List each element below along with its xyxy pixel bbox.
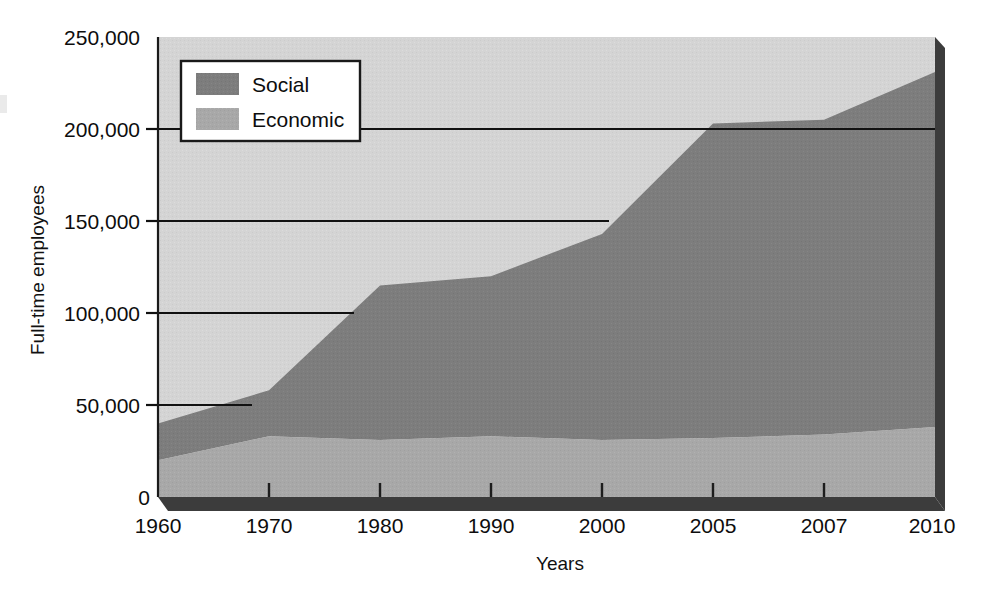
x-tick-labels: 1960 1970 1980 1990 2000 2005 2007 2010 xyxy=(135,514,956,537)
ytick-label-0: 0 xyxy=(138,486,150,509)
y-axis-title: Full-time employees xyxy=(27,185,48,355)
floor-slab xyxy=(158,497,945,511)
xtick-label-1970: 1970 xyxy=(246,514,293,537)
legend-swatch-social xyxy=(196,73,239,95)
xtick-label-2007: 2007 xyxy=(801,514,848,537)
y-tick-nubs xyxy=(146,129,158,405)
legend-entry-economic[interactable]: Economic xyxy=(196,108,344,131)
ytick-label-100000: 100,000 xyxy=(64,302,140,325)
scan-edge-artifact xyxy=(0,95,7,113)
chart-legend: Social Economic xyxy=(181,61,360,141)
legend-label-social: Social xyxy=(252,73,309,96)
ytick-label-150000: 150,000 xyxy=(64,210,140,233)
xtick-label-2005: 2005 xyxy=(690,514,737,537)
stacked-area-chart: 250,000 200,000 150,000 100,000 50,000 0… xyxy=(0,0,993,590)
legend-label-economic: Economic xyxy=(252,108,344,131)
xtick-label-1990: 1990 xyxy=(468,514,515,537)
legend-swatch-economic xyxy=(196,108,239,130)
legend-entry-social[interactable]: Social xyxy=(196,73,309,96)
ytick-label-200000: 200,000 xyxy=(64,118,140,141)
ytick-label-250000: 250,000 xyxy=(64,26,140,49)
x-axis-title: Years xyxy=(536,553,584,574)
right-slab xyxy=(935,37,945,511)
xtick-label-1960: 1960 xyxy=(135,514,182,537)
xtick-label-1980: 1980 xyxy=(357,514,404,537)
ytick-label-50000: 50,000 xyxy=(76,394,140,417)
y-tick-labels: 250,000 200,000 150,000 100,000 50,000 0 xyxy=(64,26,150,509)
xtick-label-2010: 2010 xyxy=(909,514,956,537)
xtick-label-2000: 2000 xyxy=(579,514,626,537)
chart-figure: 250,000 200,000 150,000 100,000 50,000 0… xyxy=(0,0,993,590)
